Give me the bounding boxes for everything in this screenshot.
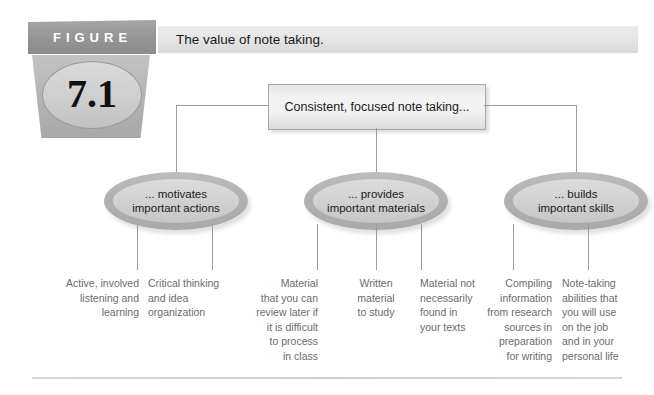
branch-node-motivates-line2: important actions bbox=[132, 201, 220, 215]
connector-root-left-horizontal bbox=[176, 105, 268, 106]
branch-node-provides-line2: important materials bbox=[327, 201, 425, 215]
connector-root-right-horizontal bbox=[484, 105, 576, 106]
leaf-active-involved-listening: Active, involvedlistening andlearning bbox=[57, 276, 139, 320]
figure-canvas: FIGURE 7.1 The value of note taking. Con… bbox=[0, 0, 654, 395]
branch-node-builds-line1: ... builds bbox=[555, 187, 598, 201]
connector-branch1-leaf2 bbox=[212, 224, 213, 270]
bottom-divider bbox=[32, 377, 622, 379]
root-node-label: Consistent, focused note taking... bbox=[285, 100, 470, 114]
leaf-written-material: Writtenmaterialto study bbox=[340, 276, 412, 320]
branch-node-provides: ... provides important materials bbox=[304, 172, 448, 230]
figure-badge: FIGURE 7.1 bbox=[26, 20, 158, 138]
connector-branch2-leaf2 bbox=[376, 224, 377, 270]
figure-badge-word: FIGURE bbox=[26, 20, 154, 54]
connector-branch2-leaf1 bbox=[317, 224, 318, 270]
connector-branch2-leaf3 bbox=[421, 224, 422, 270]
figure-title: The value of note taking. bbox=[176, 27, 636, 52]
leaf-critical-thinking: Critical thinkingand ideaorganization bbox=[148, 276, 232, 320]
figure-number-oval: 7.1 bbox=[42, 61, 142, 129]
branch-node-builds-inner: ... builds important skills bbox=[513, 179, 639, 223]
leaf-material-review-later: Materialthat you canreview later ifit is… bbox=[246, 276, 318, 363]
leaf-compiling-information: Compilinginformationfrom researchsources… bbox=[476, 276, 552, 363]
branch-node-motivates-line1: ... motivates bbox=[145, 187, 207, 201]
connector-branch3-leaf1 bbox=[513, 224, 514, 270]
connector-branch1-leaf1 bbox=[137, 224, 138, 270]
branch-node-builds-line2: important skills bbox=[538, 201, 614, 215]
root-node: Consistent, focused note taking... bbox=[268, 84, 486, 130]
figure-number: 7.1 bbox=[67, 74, 117, 114]
branch-node-motivates-inner: ... motivates important actions bbox=[113, 179, 239, 223]
connector-branch3-leaf2 bbox=[588, 224, 589, 270]
leaf-note-taking-abilities: Note-takingabilities thatyou will useon … bbox=[562, 276, 642, 363]
branch-node-builds: ... builds important skills bbox=[504, 172, 648, 230]
branch-node-provides-inner: ... provides important materials bbox=[313, 179, 439, 223]
branch-node-provides-line1: ... provides bbox=[348, 187, 404, 201]
branch-node-motivates: ... motivates important actions bbox=[104, 172, 248, 230]
